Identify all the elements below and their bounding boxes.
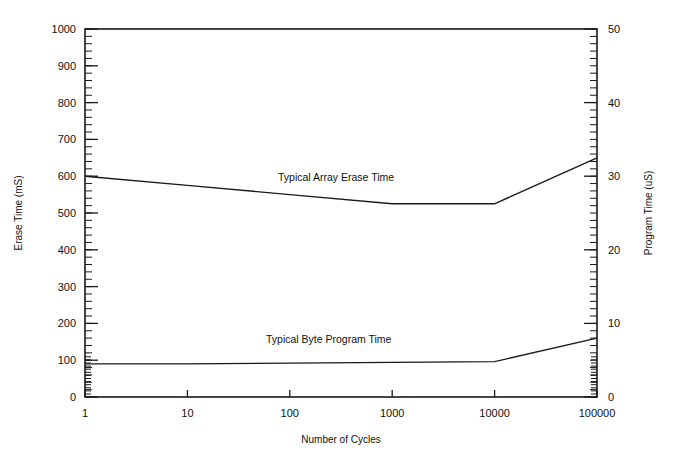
x-tick-label: 1 (82, 407, 88, 419)
y-right-tick-label: 0 (608, 391, 614, 403)
erase-series-annotation: Typical Array Erase Time (278, 171, 394, 183)
y-left-tick-label: 500 (58, 207, 76, 219)
x-tick-label: 100000 (579, 407, 616, 419)
chart-figure: 01002003004005006007008009001000 Erase T… (0, 0, 673, 462)
program-series-annotation: Typical Byte Program Time (266, 333, 392, 345)
y-left-tick-label: 100 (58, 354, 76, 366)
y-left-tick-label: 300 (58, 281, 76, 293)
chart-background (0, 0, 673, 462)
y-left-tick-label: 1000 (52, 23, 76, 35)
y-left-axis-title: Erase Time (mS) (13, 175, 24, 250)
x-tick-label: 100 (281, 407, 299, 419)
y-left-tick-label: 800 (58, 97, 76, 109)
y-right-tick-label: 10 (608, 317, 620, 329)
y-right-tick-label: 50 (608, 23, 620, 35)
x-tick-label: 1000 (380, 407, 404, 419)
y-right-axis-title: Program Time (uS) (643, 171, 654, 255)
y-right-tick-label: 40 (608, 97, 620, 109)
y-right-tick-label: 20 (608, 244, 620, 256)
chart-svg: 01002003004005006007008009001000 Erase T… (0, 0, 673, 462)
y-left-tick-label: 0 (70, 391, 76, 403)
x-axis-title: Number of Cycles (301, 434, 380, 445)
y-left-tick-label: 900 (58, 60, 76, 72)
y-left-tick-label: 400 (58, 244, 76, 256)
y-left-tick-label: 200 (58, 317, 76, 329)
x-tick-label: 10 (181, 407, 193, 419)
y-right-tick-label: 30 (608, 170, 620, 182)
y-left-tick-label: 600 (58, 170, 76, 182)
x-tick-label: 10000 (479, 407, 510, 419)
y-left-tick-label: 700 (58, 133, 76, 145)
